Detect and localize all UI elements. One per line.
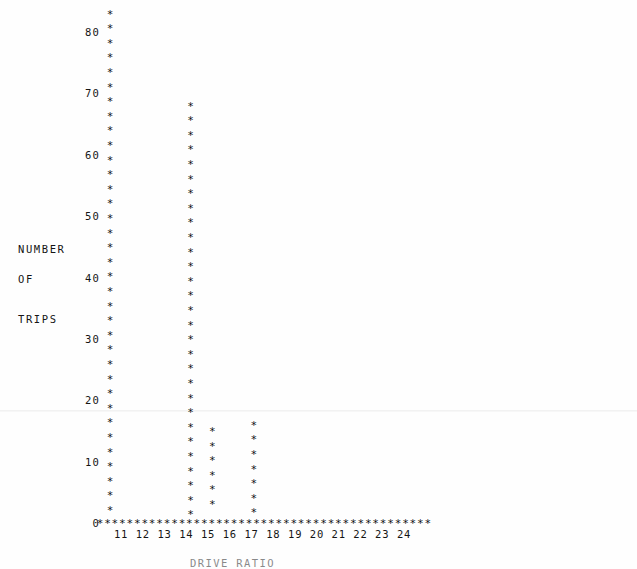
x-axis-tick-label: 11 [114,528,128,540]
y-axis-tick-label: 70 [85,87,100,99]
data-asterisk: * [249,493,258,502]
data-asterisk: * [186,320,195,329]
x-axis-tick-label: 15 [201,528,215,540]
data-asterisk: * [186,335,195,344]
data-asterisk: * [106,111,115,120]
data-asterisk: * [106,257,115,266]
x-axis-tick-label: 14 [179,528,193,540]
data-asterisk: * [186,510,195,519]
data-asterisk: * [186,145,195,154]
x-axis-tick-label: 19 [288,528,302,540]
data-asterisk: * [106,243,115,252]
data-asterisk: * [186,437,195,446]
data-asterisk: * [106,403,115,412]
data-asterisk: * [186,101,195,110]
data-asterisk: * [186,189,195,198]
data-asterisk: * [186,247,195,256]
data-asterisk: * [186,393,195,402]
y-axis-title-line-3: TRIPS [18,313,58,325]
data-asterisk: * [249,435,258,444]
x-axis-tick-label: 20 [310,528,324,540]
x-axis-tick-label: 18 [266,528,280,540]
data-asterisk: * [106,140,115,149]
data-asterisk: * [106,462,115,471]
data-asterisk: * [186,452,195,461]
data-asterisk: * [106,272,115,281]
data-asterisk: * [106,9,115,18]
data-asterisk: * [106,374,115,383]
x-axis-tick-label: 12 [136,528,150,540]
data-asterisk: * [186,364,195,373]
data-asterisk: * [186,408,195,417]
data-asterisk: * [106,432,115,441]
data-asterisk: * [249,450,258,459]
data-asterisk: * [186,422,195,431]
y-axis-tick-label: 80 [85,26,100,38]
y-axis-title-line-1: NUMBER [18,243,66,255]
dot-plot-chart: NUMBER OF TRIPS 01020304050607080 111213… [0,0,637,569]
data-asterisk: * [106,82,115,91]
y-axis-tick-label: 20 [85,394,100,406]
data-asterisk: * [106,170,115,179]
y-axis-tick-label: 40 [85,272,100,284]
data-asterisk: * [106,126,115,135]
data-asterisk: * [186,495,195,504]
data-asterisk: * [106,316,115,325]
data-asterisk: * [106,184,115,193]
data-asterisk: * [186,233,195,242]
y-axis-tick-label: 60 [85,149,100,161]
x-axis-tick-label: 21 [332,528,346,540]
data-asterisk: * [186,262,195,271]
data-asterisk: * [186,130,195,139]
data-asterisk: * [106,330,115,339]
data-asterisk: * [106,359,115,368]
data-asterisk: * [106,199,115,208]
data-asterisk: * [208,456,217,465]
data-asterisk: * [106,301,115,310]
chart-page: NUMBER OF TRIPS 01020304050607080 111213… [0,0,637,569]
data-asterisk: * [106,53,115,62]
chart-caption: DRIVE RATIO [190,557,275,569]
data-asterisk: * [106,286,115,295]
data-asterisk: * [186,466,195,475]
data-asterisk: * [249,508,258,517]
data-asterisk: * [249,479,258,488]
data-asterisk: * [186,203,195,212]
y-axis-tick-label: 10 [85,456,100,468]
data-asterisk: * [106,38,115,47]
data-asterisk: * [186,349,195,358]
data-asterisk: * [208,499,217,508]
data-asterisk: * [208,485,217,494]
x-axis-tick-label: 23 [375,528,389,540]
data-asterisk: * [208,426,217,435]
y-axis-tick-label: 30 [85,333,100,345]
x-axis-tick-label: 13 [157,528,171,540]
x-axis-tick-label: 16 [223,528,237,540]
data-asterisk: * [106,155,115,164]
data-asterisk: * [186,160,195,169]
data-asterisk: * [106,389,115,398]
data-asterisk: * [106,418,115,427]
data-asterisk: * [106,97,115,106]
data-asterisk: * [249,464,258,473]
data-asterisk: * [186,276,195,285]
data-asterisk: * [249,420,258,429]
x-axis-tick-label: 22 [353,528,367,540]
x-axis-tick-label: 17 [244,528,258,540]
data-asterisk: * [106,447,115,456]
data-asterisk: * [106,491,115,500]
data-asterisk: * [106,505,115,514]
data-asterisk: * [186,218,195,227]
data-asterisk: * [186,291,195,300]
data-asterisk: * [106,228,115,237]
x-axis-tick-label: 24 [397,528,411,540]
data-asterisk: * [186,306,195,315]
data-asterisk: * [106,67,115,76]
data-asterisk: * [186,481,195,490]
y-axis-tick-label: 50 [85,210,100,222]
data-asterisk: * [106,345,115,354]
data-asterisk: * [106,213,115,222]
data-asterisk: * [186,379,195,388]
y-axis-title-line-2: OF [18,273,34,285]
data-asterisk: * [106,476,115,485]
